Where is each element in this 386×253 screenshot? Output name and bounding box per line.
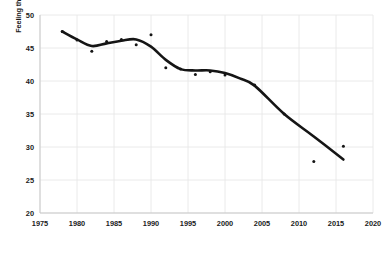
data-points [61, 30, 345, 163]
data-point [209, 70, 212, 73]
data-point [105, 40, 108, 43]
data-point [283, 113, 286, 116]
data-point [135, 43, 138, 46]
data-point [61, 30, 64, 33]
data-point [150, 33, 153, 36]
data-point [164, 66, 167, 69]
data-point [90, 50, 93, 53]
data-point [179, 68, 182, 71]
data-point [120, 38, 123, 41]
data-point [224, 74, 227, 77]
data-point [253, 83, 256, 86]
data-point [194, 73, 197, 76]
data-point [312, 160, 315, 163]
data-point [342, 145, 345, 148]
data-point [76, 39, 79, 42]
trend-line [62, 32, 343, 160]
